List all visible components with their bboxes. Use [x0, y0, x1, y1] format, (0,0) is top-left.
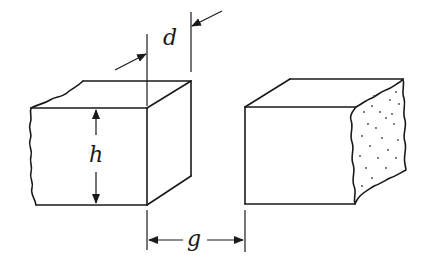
right-block: [245, 79, 406, 204]
dimension-h: h: [89, 110, 103, 203]
dimension-d: d: [115, 11, 222, 106]
label-d: d: [163, 25, 177, 50]
label-g: g: [187, 226, 201, 251]
arrow-d-right: [192, 11, 222, 26]
stipple-texture: [359, 91, 400, 187]
arrow-d-left: [115, 54, 146, 70]
left-block: [30, 81, 191, 205]
two-blocks-diagram: d h g: [0, 0, 424, 267]
label-h: h: [89, 142, 103, 167]
dimension-g: g: [147, 210, 245, 252]
